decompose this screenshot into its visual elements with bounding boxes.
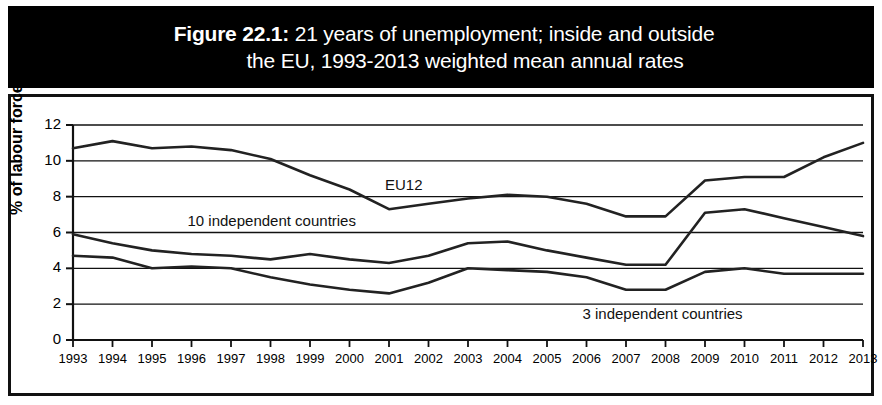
x-axis-tick-label: 2009 [685,351,725,366]
chart-plot-area: % of labour force 0246810121993199419951… [11,97,871,393]
chart-svg [11,97,871,393]
x-axis-tick-label: 2013 [843,351,882,366]
x-axis-tick-label: 1998 [251,351,291,366]
x-axis-tick-label: 1997 [211,351,251,366]
x-axis-tick-label: 2011 [764,351,804,366]
y-axis-tick-label: 2 [33,294,61,311]
chart-frame: % of labour force 0246810121993199419951… [8,94,874,396]
x-axis-tick-label: 2004 [488,351,528,366]
series-annotation: EU12 [385,176,423,193]
x-axis-tick-label: 2005 [527,351,567,366]
x-axis-tick-label: 2001 [369,351,409,366]
y-axis-tick-label: 4 [33,258,61,275]
x-axis-tick-label: 1996 [172,351,212,366]
figure-page: Figure 22.1: 21 years of unemployment; i… [0,0,882,405]
series-annotation: 10 independent countries [188,212,356,229]
series-line-0 [73,141,863,216]
x-axis-tick-label: 2003 [448,351,488,366]
y-axis-tick-label: 10 [33,151,61,168]
x-axis-tick-label: 2008 [646,351,686,366]
figure-title-banner: Figure 22.1: 21 years of unemployment; i… [8,6,874,88]
title-line-1: Figure 22.1: 21 years of unemployment; i… [168,20,715,47]
x-axis-tick-label: 2000 [330,351,370,366]
x-axis-tick-label: 1994 [93,351,133,366]
x-axis-tick-label: 2012 [804,351,844,366]
x-axis-tick-label: 1999 [290,351,330,366]
title-text-part-1: 21 years of unemployment; inside and out… [289,22,714,45]
x-axis-tick-label: 1995 [132,351,172,366]
y-axis-tick-label: 0 [33,330,61,347]
x-axis-tick-label: 1993 [53,351,93,366]
title-line-2: the EU, 1993-2013 weighted mean annual r… [198,47,683,74]
y-axis-tick-label: 6 [33,223,61,240]
x-axis-tick-label: 2007 [606,351,646,366]
x-axis-tick-label: 2006 [567,351,607,366]
series-annotation: 3 independent countries [583,305,743,322]
series-line-2 [73,256,863,294]
y-axis-tick-label: 8 [33,187,61,204]
x-axis-tick-label: 2002 [409,351,449,366]
y-axis-tick-label: 12 [33,115,61,132]
x-axis-tick-label: 2010 [725,351,765,366]
figure-number: Figure 22.1: [174,22,289,45]
